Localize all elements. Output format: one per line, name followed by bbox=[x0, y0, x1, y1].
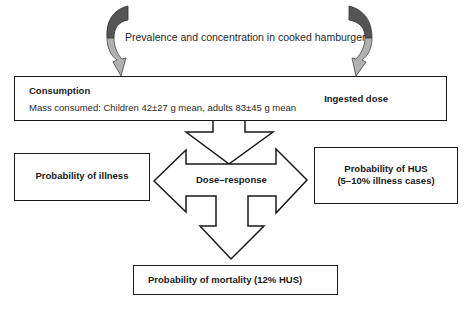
dose-response-cross-arrow bbox=[154, 121, 307, 259]
hus-probability-line1: Probability of HUS bbox=[315, 163, 457, 175]
hus-probability-line2: (5–10% illness cases) bbox=[315, 175, 457, 187]
illness-probability-box: Probability of illness bbox=[14, 153, 150, 201]
dose-response-label: Dose–response bbox=[196, 174, 267, 185]
right-curved-arrow-light-part bbox=[352, 38, 372, 76]
mortality-probability-box: Probability of mortality (12% HUS) bbox=[133, 265, 338, 295]
mass-consumed-text: Mass consumed: Children 42±27 g mean, ad… bbox=[29, 102, 296, 113]
mortality-probability-label: Probability of mortality (12% HUS) bbox=[148, 274, 302, 285]
ingested-dose-label: Ingested dose bbox=[324, 93, 388, 104]
left-curved-arrow-light-part bbox=[107, 38, 126, 76]
hus-probability-box: Probability of HUS (5–10% illness cases) bbox=[314, 147, 458, 204]
consumption-box: Consumption Mass consumed: Children 42±2… bbox=[14, 76, 447, 121]
consumption-title: Consumption bbox=[29, 85, 90, 96]
prevalence-label: Prevalence and concentration in cooked h… bbox=[125, 31, 345, 43]
hus-probability-text: Probability of HUS (5–10% illness cases) bbox=[315, 163, 457, 187]
illness-probability-label: Probability of illness bbox=[15, 170, 149, 181]
